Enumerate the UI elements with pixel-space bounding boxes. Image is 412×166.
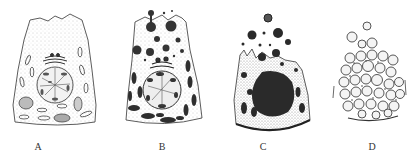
panel-label-d: D	[362, 141, 382, 152]
panel-b-cell	[126, 10, 202, 124]
panel-label-b: B	[152, 141, 172, 152]
panel-a-cell	[13, 14, 96, 125]
panel-label-c: C	[253, 141, 273, 152]
secretory-vesicles-d	[339, 22, 405, 119]
secretion-stages-figure	[0, 0, 412, 166]
panel-label-a: A	[28, 141, 48, 152]
panel-d-cell	[333, 22, 406, 121]
panel-c-cell	[234, 14, 310, 130]
